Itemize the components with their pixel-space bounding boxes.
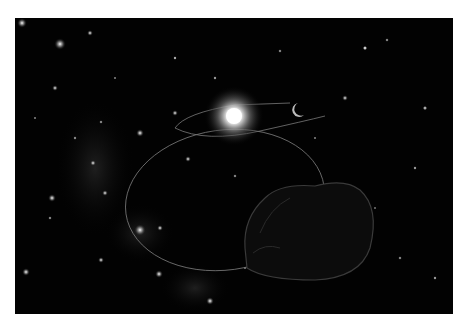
asteroid: [245, 183, 374, 280]
space-illustration: [15, 18, 453, 314]
crescent-body: [292, 103, 304, 117]
sun-core: [226, 108, 242, 124]
